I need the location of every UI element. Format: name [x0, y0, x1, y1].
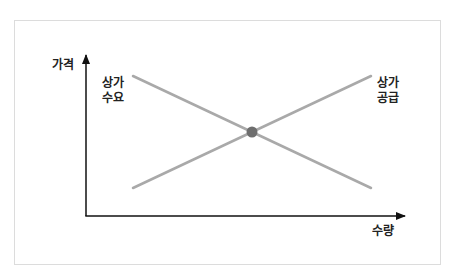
y-axis-label: 가격 [52, 58, 74, 73]
demand-label-line2: 수요 [102, 91, 124, 106]
supply-label-line2: 공급 [377, 91, 399, 106]
equilibrium-point [247, 127, 258, 138]
demand-label: 상가 수요 [102, 76, 124, 106]
demand-label-line1: 상가 [102, 76, 124, 91]
supply-label-line1: 상가 [377, 76, 399, 91]
supply-label: 상가 공급 [377, 76, 399, 106]
x-axis-label: 수량 [372, 224, 394, 239]
